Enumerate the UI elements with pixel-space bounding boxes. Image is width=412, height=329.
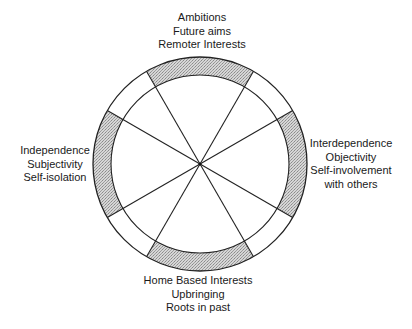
label-left-line: Independence (20, 144, 90, 158)
spoke-line (200, 71, 254, 164)
shaded-segment-bottom (147, 241, 254, 271)
label-top: Ambitions Future aims Remoter Interests (158, 11, 245, 52)
label-right-line: Self-involvement (310, 164, 393, 178)
spoke-line (107, 111, 200, 165)
spoke-line (107, 164, 200, 218)
label-bottom: Home Based Interests Upbringing Roots in… (144, 274, 253, 315)
label-bottom-line: Roots in past (144, 301, 253, 315)
label-right-line: Interdependence (310, 137, 393, 151)
center-hub (198, 162, 201, 165)
label-top-line: Ambitions (158, 11, 245, 25)
label-bottom-line: Upbringing (144, 288, 253, 302)
shaded-segment-right (277, 111, 307, 218)
spoke-line (147, 71, 201, 164)
spoke-line (200, 164, 293, 218)
spoke-line (200, 111, 293, 165)
shaded-segment-top (147, 57, 254, 87)
spoke-line (200, 164, 254, 257)
label-top-line: Future aims (158, 25, 245, 39)
label-left-line: Self-isolation (20, 171, 90, 185)
label-left: Independence Subjectivity Self-isolation (20, 144, 90, 185)
label-right-line: with others (310, 178, 393, 192)
label-top-line: Remoter Interests (158, 38, 245, 52)
label-right-line: Objectivity (310, 151, 393, 165)
label-left-line: Subjectivity (20, 158, 90, 172)
label-bottom-line: Home Based Interests (144, 274, 253, 288)
shaded-segment-left (93, 111, 123, 218)
spoke-line (147, 164, 201, 257)
label-right: Interdependence Objectivity Self-involve… (310, 137, 393, 191)
